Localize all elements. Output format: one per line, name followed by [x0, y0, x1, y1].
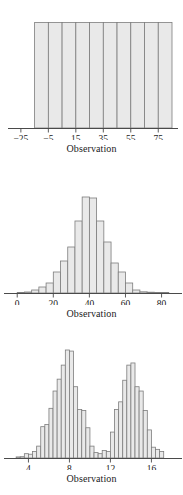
- x-axis-tick-label: 80: [157, 299, 167, 305]
- normal-axis: [4, 294, 182, 298]
- x-axis-tick-label: 15: [71, 134, 81, 140]
- x-axis-tick-label: 0: [15, 299, 20, 305]
- histogram-bar: [133, 290, 140, 293]
- histogram-bar: [76, 23, 90, 128]
- x-axis-tick-label: 60: [121, 299, 131, 305]
- x-axis-tick-label: 35: [99, 134, 109, 140]
- bimodal-axis-label: Observation: [0, 473, 183, 484]
- histogram-bar: [53, 272, 60, 293]
- normal-ticklabels: 020406080: [15, 299, 167, 305]
- histogram-bar: [33, 452, 37, 458]
- x-axis-tick-label: 55: [126, 134, 136, 140]
- histogram-bar: [82, 410, 86, 458]
- histogram-bar: [145, 23, 159, 128]
- histogram-panel-normal: 020406080 Observation: [0, 165, 183, 330]
- normal-bars: [17, 197, 169, 293]
- histogram-bar: [75, 221, 82, 293]
- histogram-bar: [82, 197, 89, 293]
- bimodal-axis: [4, 459, 182, 463]
- histogram-bar: [111, 263, 118, 293]
- uniform-plot-area: −25−515355575: [0, 0, 183, 165]
- histogram-bar: [162, 292, 169, 293]
- histogram-bar: [147, 430, 151, 458]
- histogram-bar: [125, 283, 132, 293]
- histogram-bar: [62, 23, 76, 128]
- histogram-bar: [65, 350, 69, 458]
- histogram-bar: [24, 292, 31, 293]
- histogram-bar: [46, 283, 53, 293]
- histogram-bar: [53, 391, 57, 458]
- histogram-bar: [37, 446, 41, 458]
- x-axis-tick-label: 4: [26, 464, 31, 470]
- histogram-bar: [48, 23, 62, 128]
- histogram-bar: [45, 425, 49, 458]
- histogram-bar: [78, 409, 82, 458]
- x-axis-tick-label: 75: [154, 134, 164, 140]
- histogram-bar: [117, 23, 131, 128]
- histogram-bar: [94, 453, 98, 458]
- uniform-ticklabels: −25−515355575: [13, 134, 163, 140]
- histogram-bar: [61, 365, 65, 458]
- histogram-bar: [74, 387, 78, 458]
- uniform-axis-label: Observation: [0, 143, 183, 154]
- histogram-bar: [135, 387, 139, 458]
- x-axis-tick-label: 16: [147, 464, 157, 470]
- histogram-bar: [119, 402, 123, 458]
- histogram-bar: [20, 457, 24, 458]
- x-axis-tick-label: 20: [49, 299, 59, 305]
- histogram-bar: [35, 23, 49, 128]
- histogram-bar: [139, 391, 143, 458]
- histogram-bar: [90, 23, 104, 128]
- uniform-histogram-svg: −25−515355575: [0, 0, 183, 140]
- histogram-bar: [86, 428, 90, 458]
- histogram-bar: [97, 221, 104, 293]
- uniform-axis: [8, 129, 178, 133]
- bimodal-histogram-svg: 481216: [0, 330, 183, 470]
- normal-axis-label: Observation: [0, 308, 183, 319]
- histogram-bar: [39, 287, 46, 293]
- histogram-bar: [90, 446, 94, 458]
- histogram-panel-bimodal: 481216 Observation: [0, 330, 183, 495]
- histogram-bar: [118, 272, 125, 293]
- histogram-bar: [131, 363, 135, 458]
- histogram-bar: [89, 198, 96, 293]
- histogram-bar: [158, 23, 172, 128]
- histogram-bar: [102, 450, 106, 458]
- histogram-bar: [160, 452, 164, 458]
- histogram-bar: [68, 247, 75, 293]
- histogram-bar: [127, 365, 131, 458]
- histogram-bar: [151, 447, 155, 458]
- histogram-bar: [41, 427, 45, 458]
- bimodal-plot-area: 481216: [0, 330, 183, 495]
- x-axis-tick-label: −25: [13, 134, 28, 140]
- histogram-bar: [106, 452, 110, 458]
- x-axis-tick-label: −5: [43, 134, 53, 140]
- normal-plot-area: 020406080: [0, 165, 183, 330]
- histogram-bar: [143, 410, 147, 458]
- histogram-bar: [154, 292, 161, 293]
- histogram-bar: [57, 379, 61, 458]
- uniform-bars: [35, 23, 172, 128]
- histogram-bar: [131, 23, 145, 128]
- bimodal-ticklabels: 481216: [26, 464, 156, 470]
- bimodal-bars: [16, 350, 164, 458]
- histogram-bar: [140, 292, 147, 293]
- histogram-bar: [104, 242, 111, 293]
- x-axis-tick-label: 12: [106, 464, 116, 470]
- histogram-panel-uniform: −25−515355575 Observation: [0, 0, 183, 165]
- histogram-bar: [156, 449, 160, 458]
- x-axis-tick-label: 8: [67, 464, 72, 470]
- histogram-bar: [16, 457, 20, 458]
- histogram-bar: [69, 351, 73, 458]
- histogram-bar: [123, 380, 127, 458]
- histogram-bar: [98, 454, 102, 458]
- histogram-bar: [147, 292, 154, 293]
- normal-histogram-svg: 020406080: [0, 165, 183, 305]
- histogram-bar: [49, 408, 53, 458]
- histogram-bar: [61, 261, 68, 293]
- histogram-bar: [28, 454, 32, 458]
- histogram-bar: [32, 290, 39, 293]
- histogram-bar: [103, 23, 117, 128]
- histogram-bar: [24, 454, 28, 458]
- histogram-bar: [17, 292, 24, 293]
